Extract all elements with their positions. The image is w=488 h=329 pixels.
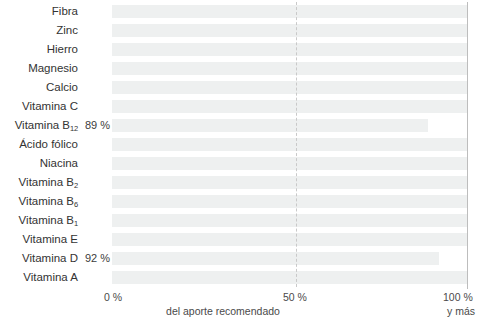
category-label-text: Vitamina B xyxy=(15,119,70,131)
bar-row xyxy=(112,192,467,211)
x-tick-100: 100 % xyxy=(443,291,473,303)
bar xyxy=(112,119,428,132)
gridline-100-percent xyxy=(467,2,468,289)
bar-value-label xyxy=(78,192,110,211)
category-label: Fibra xyxy=(0,2,78,21)
bar-track xyxy=(112,62,467,75)
bar-track xyxy=(112,24,467,37)
bar-row xyxy=(112,211,467,230)
bar xyxy=(112,24,467,37)
category-label-subscript: 12 xyxy=(70,124,78,133)
category-label-text: Magnesio xyxy=(28,62,78,74)
value-labels-column: 89 %92 % xyxy=(78,2,110,287)
category-label-text: Hierro xyxy=(47,43,78,55)
bar-track xyxy=(112,157,467,170)
category-label-text: Vitamina E xyxy=(23,233,78,245)
category-label: Vitamina A xyxy=(0,268,78,287)
bar-value-label xyxy=(78,230,110,249)
bar xyxy=(112,195,467,208)
bar-value-label xyxy=(78,154,110,173)
category-label: Vitamina B6 xyxy=(0,192,78,211)
plot-area xyxy=(112,2,467,287)
bar-row xyxy=(112,21,467,40)
category-label: Vitamina B2 xyxy=(0,173,78,192)
bar-track xyxy=(112,214,467,227)
bar xyxy=(112,62,467,75)
category-label: Vitamina C xyxy=(0,97,78,116)
bar-row xyxy=(112,268,467,287)
bar xyxy=(112,138,467,151)
category-label: Vitamina B1 xyxy=(0,211,78,230)
category-axis-labels: FibraZincHierroMagnesioCalcioVitamina CV… xyxy=(0,2,78,287)
category-label: Vitamina B12 xyxy=(0,116,78,135)
category-label-text: Vitamina B xyxy=(19,214,74,226)
bar-value-label xyxy=(78,211,110,230)
bar-value-label: 92 % xyxy=(78,249,110,268)
bar-row xyxy=(112,97,467,116)
bar-value-label xyxy=(78,97,110,116)
category-label: Vitamina D xyxy=(0,249,78,268)
bar-track xyxy=(112,252,467,265)
bar xyxy=(112,5,467,18)
bar-row xyxy=(112,2,467,21)
category-label: Zinc xyxy=(0,21,78,40)
bar-value-label xyxy=(78,135,110,154)
bar-value-label xyxy=(78,268,110,287)
bar-value-label xyxy=(78,173,110,192)
category-label-text: Ácido fólico xyxy=(19,138,78,150)
bar-value-label xyxy=(78,59,110,78)
category-label: Hierro xyxy=(0,40,78,59)
bar-track xyxy=(112,100,467,113)
bar-track xyxy=(112,119,467,132)
bar-track xyxy=(112,176,467,189)
bar-value-label xyxy=(78,2,110,21)
bar-value-label: 89 % xyxy=(78,116,110,135)
category-label-text: Vitamina B xyxy=(19,176,74,188)
x-tick-100-sublabel: y más xyxy=(447,305,475,317)
gridline-50-percent xyxy=(296,2,297,287)
bar xyxy=(112,176,467,189)
bar-track xyxy=(112,81,467,94)
x-tick-50: 50 % xyxy=(283,291,307,303)
bar-track xyxy=(112,43,467,56)
category-label: Calcio xyxy=(0,78,78,97)
bar xyxy=(112,252,439,265)
category-label: Magnesio xyxy=(0,59,78,78)
bar-series xyxy=(112,2,467,287)
bar-row xyxy=(112,40,467,59)
bar-track xyxy=(112,195,467,208)
bar-value-label xyxy=(78,40,110,59)
bar-row xyxy=(112,173,467,192)
bar-row xyxy=(112,135,467,154)
x-tick-0: 0 % xyxy=(104,291,122,303)
bar-row xyxy=(112,59,467,78)
bar-track xyxy=(112,5,467,18)
bar-row xyxy=(112,249,467,268)
bar-row xyxy=(112,116,467,135)
bar-value-label xyxy=(78,21,110,40)
bar-row xyxy=(112,230,467,249)
category-label-text: Vitamina D xyxy=(22,252,78,264)
bar-row xyxy=(112,78,467,97)
bar-track xyxy=(112,271,467,284)
category-label-text: Calcio xyxy=(46,81,78,93)
bar xyxy=(112,81,467,94)
bar xyxy=(112,157,467,170)
bar-value-label xyxy=(78,78,110,97)
category-label-text: Zinc xyxy=(56,24,78,36)
bar xyxy=(112,233,467,246)
category-label: Niacina xyxy=(0,154,78,173)
bar xyxy=(112,43,467,56)
bar-track xyxy=(112,233,467,246)
bar-track xyxy=(112,138,467,151)
x-axis-caption: del aporte recomendado xyxy=(0,305,446,317)
bar xyxy=(112,214,467,227)
bar xyxy=(112,271,467,284)
category-label: Vitamina E xyxy=(0,230,78,249)
category-label-text: Vitamina C xyxy=(22,100,78,112)
nutrient-coverage-bar-chart: FibraZincHierroMagnesioCalcioVitamina CV… xyxy=(0,0,488,329)
category-label-text: Vitamina A xyxy=(23,271,78,283)
category-label-text: Vitamina B xyxy=(19,195,74,207)
category-label-text: Niacina xyxy=(40,157,78,169)
bar xyxy=(112,100,467,113)
